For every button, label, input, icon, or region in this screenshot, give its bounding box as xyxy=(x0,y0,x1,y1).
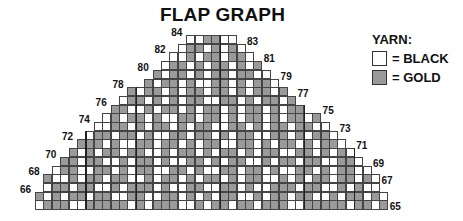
stitch-cell xyxy=(279,87,288,96)
stitch-cell xyxy=(228,35,237,44)
stitch-cell xyxy=(379,200,388,209)
stitch-cell xyxy=(363,166,372,175)
row-number-label: 68 xyxy=(28,166,39,177)
stitch-cell xyxy=(371,183,380,192)
row-number-label: 77 xyxy=(297,88,308,99)
stitch-cell xyxy=(337,139,346,148)
row-number-label: 67 xyxy=(381,175,392,186)
row-number-label: 66 xyxy=(20,184,31,195)
stitch-cell xyxy=(253,61,262,70)
row-number-label: 84 xyxy=(171,27,182,38)
row-number-label: 65 xyxy=(390,201,401,212)
stitch-cell xyxy=(371,174,380,183)
row-number-label: 81 xyxy=(264,53,275,64)
row-number-label: 71 xyxy=(356,140,367,151)
stitch-cell xyxy=(287,96,296,105)
flap-chart-grid: 6566676869707172737475767778798081828384 xyxy=(0,0,463,221)
grid-guide-line xyxy=(136,87,137,209)
row-number-label: 75 xyxy=(323,105,334,116)
row-number-label: 80 xyxy=(138,62,149,73)
stitch-cell xyxy=(237,44,246,53)
row-number-label: 74 xyxy=(79,114,90,125)
stitch-cell xyxy=(329,131,338,140)
row-number-label: 70 xyxy=(45,149,56,160)
grid-guide-line xyxy=(220,35,221,209)
row-number-label: 73 xyxy=(339,123,350,134)
stitch-cell xyxy=(321,122,330,131)
row-number-label: 76 xyxy=(96,97,107,108)
stitch-cell xyxy=(354,157,363,166)
row-number-label: 72 xyxy=(62,131,73,142)
stitch-cell xyxy=(262,70,271,79)
stitch-cell xyxy=(245,52,254,61)
row-number-label: 79 xyxy=(281,71,292,82)
stitch-cell xyxy=(312,113,321,122)
row-number-label: 82 xyxy=(154,44,165,55)
stitch-cell xyxy=(379,192,388,201)
grid-guide-line xyxy=(304,105,305,209)
row-number-label: 69 xyxy=(373,158,384,169)
grid-guide-line xyxy=(354,148,355,209)
row-number-label: 78 xyxy=(112,79,123,90)
grid-guide-line xyxy=(85,131,86,209)
stitch-cell xyxy=(270,79,279,88)
row-number-label: 83 xyxy=(247,36,258,47)
